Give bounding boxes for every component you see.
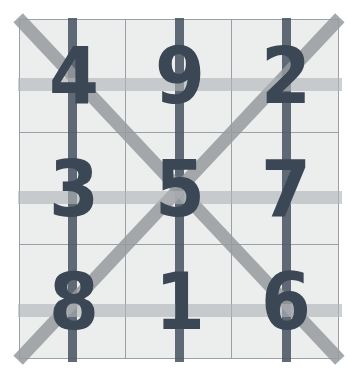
grid-cell [232,133,338,246]
grid-cell [20,133,126,246]
grid-cell [232,20,338,133]
grid-cell [232,245,338,358]
grid-cell [126,133,232,246]
grid-cell [126,20,232,133]
figure-canvas: 4 9 2 3 5 7 8 1 6 [0,0,356,376]
grid-lines [20,20,338,358]
grid-cell [20,245,126,358]
grid-cell [126,245,232,358]
magic-square-board: 4 9 2 3 5 7 8 1 6 [19,19,339,359]
grid-cell [20,20,126,133]
